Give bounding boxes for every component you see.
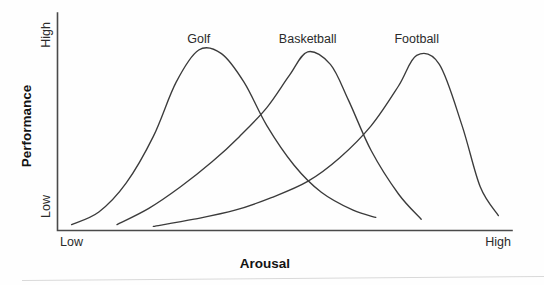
series-label-golf: Golf <box>187 32 210 46</box>
chart-container: Golf Basketball Football High Low Perfor… <box>0 0 544 285</box>
x-tick-label-low: Low <box>60 235 84 249</box>
curve-golf <box>72 48 376 225</box>
curve-football <box>153 54 498 227</box>
y-tick-label-high: High <box>39 22 53 48</box>
x-tick-label-high: High <box>485 235 511 249</box>
scan-edge-artifact <box>22 277 544 281</box>
x-axis-title: Arousal <box>240 256 290 271</box>
y-axis-title: Performance <box>19 84 34 167</box>
series-label-football: Football <box>394 32 438 46</box>
series-label-basketball: Basketball <box>279 32 337 46</box>
arousal-performance-chart: Golf Basketball Football High Low Perfor… <box>0 0 544 285</box>
y-tick-label-low: Low <box>39 194 53 218</box>
